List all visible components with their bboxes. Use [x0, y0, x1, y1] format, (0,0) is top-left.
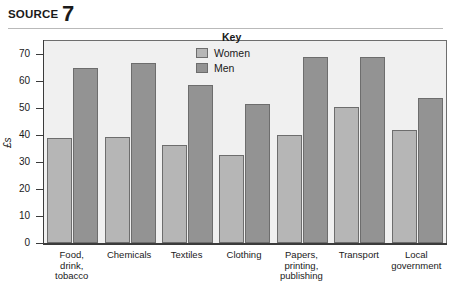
bar-group: [101, 41, 158, 243]
bar-women: [105, 137, 130, 243]
y-tick-label: 20: [0, 184, 30, 194]
legend-item-women: Women: [196, 47, 288, 59]
chart-legend: Key Women Men: [196, 31, 288, 77]
x-axis-label: Clothing: [215, 250, 272, 261]
bar-women: [392, 130, 417, 243]
bar-men: [188, 85, 213, 243]
bar-women: [219, 155, 244, 243]
bar-men: [303, 57, 328, 243]
y-tick-mark: [36, 162, 43, 163]
source-label: SOURCE: [8, 8, 58, 20]
bar-women: [334, 107, 359, 243]
source-header: SOURCE 7: [8, 4, 443, 28]
bar-women: [162, 145, 187, 243]
legend-label-women: Women: [214, 47, 250, 59]
y-tick-label: 40: [0, 130, 30, 140]
bar-women: [47, 138, 72, 243]
source-number: 7: [62, 1, 74, 27]
bar-men: [418, 98, 443, 243]
header-divider: [8, 28, 443, 29]
x-axis-label: Textiles: [158, 250, 215, 261]
bar-men: [131, 63, 156, 243]
y-tick-mark: [36, 135, 43, 136]
bar-group: [331, 41, 388, 243]
y-tick-label: 30: [0, 157, 30, 167]
bar-women: [277, 135, 302, 243]
bar-men: [73, 68, 98, 243]
y-tick-mark: [36, 216, 43, 217]
y-tick-mark: [36, 189, 43, 190]
x-axis-labels: Food,drink,tobaccoChemicalsTextilesCloth…: [43, 250, 447, 298]
x-axis-label: Transport: [330, 250, 387, 261]
x-axis-label: Papers,printing,publishing: [273, 250, 330, 282]
y-tick-label: 70: [0, 49, 30, 59]
y-tick-mark: [36, 108, 43, 109]
x-axis-label: Chemicals: [100, 250, 157, 261]
legend-swatch-men-icon: [196, 63, 208, 73]
x-axis-label: Food,drink,tobacco: [43, 250, 100, 282]
legend-item-men: Men: [196, 62, 288, 74]
bar-men: [245, 104, 270, 243]
y-tick-label: 10: [0, 211, 30, 221]
bar-group: [389, 41, 446, 243]
y-tick-mark: [36, 243, 43, 244]
bar-men: [360, 57, 385, 243]
y-tick-label: 50: [0, 103, 30, 113]
legend-title: Key: [222, 31, 288, 43]
x-axis-line: [43, 243, 447, 245]
bar-group: [44, 41, 101, 243]
y-tick-label: 0: [0, 238, 30, 248]
legend-label-men: Men: [214, 62, 234, 74]
y-tick-mark: [36, 81, 43, 82]
x-axis-label: Localgovernment: [388, 250, 445, 271]
legend-swatch-women-icon: [196, 48, 208, 58]
y-tick-label: 60: [0, 76, 30, 86]
y-tick-mark: [36, 54, 43, 55]
